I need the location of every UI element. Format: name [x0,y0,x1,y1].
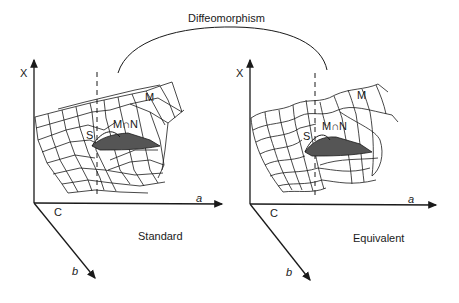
x-axis-label: X [236,67,244,79]
intersection-label: M∩N [322,120,347,132]
surface-label-m: M [145,91,154,103]
origin-label: C [54,206,62,218]
surface-label-m: M [357,89,366,101]
a-axis-label: a [408,193,414,205]
intersection-label: M∩N [113,118,138,130]
a-axis [34,203,222,204]
fold-label-s: S [86,129,93,141]
fold-label-s: S [303,130,310,142]
a-axis-label: a [196,192,202,204]
caption-equivalent: Equivalent [353,232,404,244]
fold-region [92,133,160,150]
equivalent-panel: X a b C M M [236,60,436,280]
x-axis-label: X [20,67,28,79]
b-axis-label: b [72,265,78,277]
standard-panel: X a b C [20,60,222,278]
diffeomorphism-arc [118,27,327,73]
diffeomorphism-title: Diffeomorphism [188,12,265,24]
origin-label: C [270,207,278,219]
diffeomorphism-diagram: Diffeomorphism X a b C [0,0,459,303]
caption-standard: Standard [138,230,183,242]
b-axis [250,204,310,280]
b-axis-label: b [286,266,292,278]
b-axis [34,203,95,278]
